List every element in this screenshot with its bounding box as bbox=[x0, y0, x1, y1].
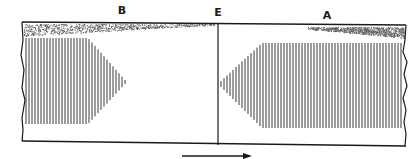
stipple-dot bbox=[136, 26, 137, 27]
stipple-dot bbox=[316, 28, 317, 29]
stipple-dot bbox=[117, 27, 118, 28]
stipple-dot bbox=[169, 27, 170, 28]
stipple-dot bbox=[177, 25, 178, 26]
stipple-dot bbox=[150, 27, 151, 28]
stipple-dot bbox=[54, 32, 55, 33]
stipple-dot bbox=[374, 29, 375, 30]
stipple-dot bbox=[341, 31, 342, 32]
stipple-dot bbox=[370, 33, 371, 34]
stipple-dot bbox=[352, 33, 353, 34]
stipple-dot bbox=[56, 25, 57, 26]
stipple-dot bbox=[349, 28, 350, 29]
stipple-dot bbox=[398, 30, 399, 31]
stipple-dot bbox=[393, 36, 394, 37]
stipple-dot bbox=[381, 32, 382, 33]
stipple-dot bbox=[386, 30, 387, 31]
stipple-dot bbox=[125, 25, 126, 26]
stipple-dot bbox=[183, 25, 184, 26]
stipple-dot bbox=[87, 29, 88, 30]
stipple-dot bbox=[61, 29, 62, 30]
stipple-dot bbox=[352, 28, 353, 29]
stipple-dot bbox=[401, 34, 402, 35]
stipple-dot bbox=[327, 28, 328, 29]
stipple-dot bbox=[396, 33, 397, 34]
stipple-dot bbox=[122, 28, 123, 29]
stipple-dot bbox=[389, 33, 390, 34]
stipple-dot bbox=[381, 28, 382, 29]
stipple-dot bbox=[376, 28, 377, 29]
stipple-dot bbox=[178, 27, 179, 28]
stipple-dot bbox=[32, 31, 33, 32]
stipple-dot bbox=[66, 31, 67, 32]
stipple-dot bbox=[187, 24, 188, 25]
stipple-dot bbox=[144, 25, 145, 26]
stipple-dot bbox=[357, 32, 358, 33]
stipple-dot bbox=[53, 30, 54, 31]
stipple-dot bbox=[128, 26, 129, 27]
stipple-dot bbox=[155, 26, 156, 27]
stipple-dot bbox=[205, 24, 206, 25]
stipple-dot bbox=[352, 30, 353, 31]
stipple-dot bbox=[91, 24, 92, 25]
stipple-dot bbox=[135, 25, 136, 26]
stipple-dot bbox=[89, 32, 90, 33]
stipple-dot bbox=[333, 31, 334, 32]
stipple-dot bbox=[59, 34, 60, 35]
stipple-dot bbox=[402, 31, 403, 32]
stipple-dot bbox=[182, 24, 183, 25]
stipple-dot bbox=[330, 28, 331, 29]
stipple-dot bbox=[111, 31, 112, 32]
stipple-dot bbox=[182, 25, 183, 26]
stipple-dot bbox=[62, 26, 63, 27]
stipple-dot bbox=[25, 27, 26, 28]
stipple-dot bbox=[132, 28, 133, 29]
stipple-dot bbox=[48, 24, 49, 25]
stipple-dot bbox=[41, 27, 42, 28]
stipple-dot bbox=[347, 27, 348, 28]
stipple-dot bbox=[90, 26, 91, 27]
stipple-dot bbox=[79, 26, 80, 27]
stipple-dot bbox=[45, 26, 46, 27]
stipple-dot bbox=[206, 24, 207, 25]
stipple-dot bbox=[126, 24, 127, 25]
stipple-dot bbox=[314, 29, 315, 30]
stipple-dot bbox=[371, 34, 372, 35]
stipple-dot bbox=[97, 26, 98, 27]
stipple-dot bbox=[160, 25, 161, 26]
stipple-dot bbox=[114, 28, 115, 29]
stipple-dot bbox=[404, 36, 405, 37]
stipple-dot bbox=[125, 26, 126, 27]
stipple-dot bbox=[84, 28, 85, 29]
arrow-head-icon bbox=[243, 153, 252, 159]
stipple-dot bbox=[361, 31, 362, 32]
stipple-dot bbox=[379, 31, 380, 32]
stipple-dot bbox=[204, 26, 205, 27]
stipple-dot bbox=[137, 28, 138, 29]
stipple-dot bbox=[201, 24, 202, 25]
stipple-dot bbox=[214, 24, 215, 25]
stipple-dot bbox=[55, 28, 56, 29]
stipple-dot bbox=[312, 27, 313, 28]
stipple-dot bbox=[126, 28, 127, 29]
stipple-dot bbox=[44, 34, 45, 35]
stipple-dot bbox=[106, 30, 107, 31]
stipple-dot bbox=[353, 28, 354, 29]
stipple-dot bbox=[85, 27, 86, 28]
stipple-dot bbox=[108, 28, 109, 29]
stipple-dot bbox=[59, 27, 60, 28]
stipple-dot bbox=[39, 30, 40, 31]
stipple-dot bbox=[71, 30, 72, 31]
stipple-dot bbox=[86, 31, 87, 32]
stipple-dot bbox=[94, 27, 95, 28]
stipple-dot bbox=[83, 32, 84, 33]
stipple-dot bbox=[67, 30, 68, 31]
stipple-dot bbox=[385, 35, 386, 36]
stipple-dot bbox=[384, 36, 385, 37]
stipple-dot bbox=[124, 27, 125, 28]
stipple-dot bbox=[120, 27, 121, 28]
stipple-dot bbox=[62, 30, 63, 31]
stipple-dot bbox=[83, 29, 84, 30]
stipple-dot bbox=[98, 27, 99, 28]
stipple-dot bbox=[48, 28, 49, 29]
stipple-dot bbox=[401, 28, 402, 29]
